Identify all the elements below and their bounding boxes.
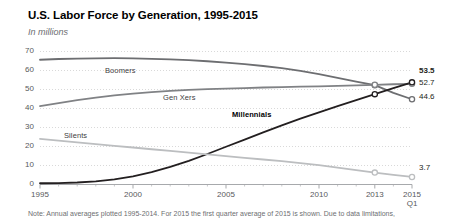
chart-container: U.S. Labor Force by Generation, 1995-201… [0, 0, 456, 223]
data-point-marker [372, 170, 377, 175]
x-axis-tick-label: 2015Q1 [392, 190, 432, 208]
series-label-genxers: Gen Xers [163, 93, 195, 102]
data-point-marker [409, 174, 414, 179]
y-axis-tick-label: 20 [12, 141, 34, 150]
x-axis-tick-label: 2000 [113, 190, 153, 199]
series-lines [40, 58, 412, 183]
series-markers [372, 80, 414, 180]
data-point-marker [372, 92, 377, 97]
x-axis-tick-label: 2005 [206, 190, 246, 199]
x-axis-tick-sublabel: Q1 [392, 199, 432, 208]
y-axis-tick-label: 50 [12, 84, 34, 93]
y-axis-tick-label: 60 [12, 65, 34, 74]
series-label-millennials: Millennials [232, 110, 271, 119]
y-axis-tick-label: 10 [12, 160, 34, 169]
series-label-silents: Silents [64, 131, 87, 140]
data-point-marker [372, 82, 377, 87]
end-label-boomers: 44.6 [419, 92, 435, 101]
data-point-marker [409, 80, 414, 85]
chart-note: Note: Annual averages plotted 1995-2014.… [28, 210, 395, 217]
end-label-millennials: 53.5 [419, 66, 435, 75]
series-line-gen-xers [40, 84, 412, 106]
y-axis-tick-label: 0 [12, 179, 34, 188]
x-axis-tick-label: 1995 [20, 190, 60, 199]
end-label-genxers: 52.7 [419, 78, 435, 87]
x-axis-tick-label: 2013 [355, 190, 395, 199]
end-label-silents: 3.7 [419, 163, 430, 172]
series-line-silents [40, 139, 412, 177]
series-line-boomers [40, 58, 412, 99]
y-axis-tick-label: 70 [12, 46, 34, 55]
x-axis-tick-label: 2010 [299, 190, 339, 199]
series-label-boomers: Boomers [105, 66, 136, 75]
gridlines [40, 52, 412, 185]
y-axis-tick-label: 40 [12, 103, 34, 112]
y-axis-tick-label: 30 [12, 122, 34, 131]
data-point-marker [409, 97, 414, 102]
x-axis-ticks [40, 185, 412, 189]
